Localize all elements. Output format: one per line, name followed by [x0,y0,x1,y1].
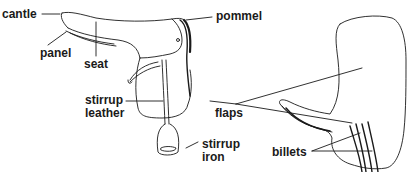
label-billets: billets [272,146,307,159]
label-stirrup-iron-line2: iron [202,151,225,164]
label-stirrup-leather-line2: leather [85,107,124,120]
label-flaps: flaps [215,107,243,120]
saddle-diagram: cantle pommel panel seat stirrup leather… [0,0,416,172]
label-seat: seat [84,58,108,71]
label-panel: panel [40,47,71,60]
label-cantle: cantle [2,8,37,21]
side-saddle-illustration [61,12,191,155]
label-pommel: pommel [216,10,262,23]
